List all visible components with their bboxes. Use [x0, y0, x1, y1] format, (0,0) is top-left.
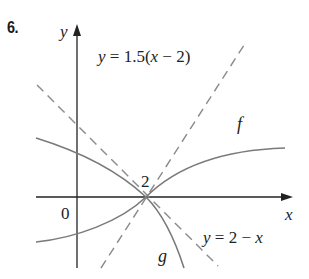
x-axis-label: x: [284, 205, 293, 224]
x-axis-arrow-icon: [281, 193, 293, 201]
point-label: 2: [141, 172, 150, 191]
y-axis-label: y: [58, 22, 68, 41]
curve-f-label: f: [237, 114, 245, 134]
line2-label: y = 2 − x: [201, 228, 263, 247]
y-axis-arrow-icon: [73, 24, 81, 36]
line1-label: y = 1.5(x − 2): [96, 47, 190, 66]
curve-g-label: g: [158, 246, 167, 266]
line-y-2-minus-x: [37, 85, 218, 266]
graph: y x 0 2 f g y = 1.5(x − 2) y = 2 − x: [0, 0, 309, 279]
origin-label: 0: [61, 204, 70, 223]
